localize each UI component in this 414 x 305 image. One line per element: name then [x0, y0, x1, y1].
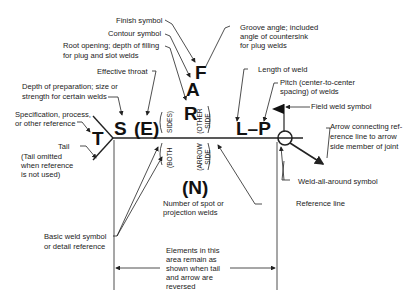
both-sides-top: SIDES)	[166, 111, 174, 133]
label-effective-throat: Effective throat	[97, 67, 148, 76]
label-depth-prep-1: Depth of preparation; size or	[22, 82, 118, 91]
label-root-opening-1: Root opening; depth of filling	[63, 41, 159, 50]
label-specification-1: Specification, process,	[15, 110, 91, 119]
label-pitch-1: Pitch (center-to-center	[280, 78, 355, 87]
label-field-weld: Field weld symbol	[311, 102, 371, 111]
label-tail-note-1: (Tail omitted	[21, 152, 62, 161]
label-arrow-connecting-3: side member of joint	[330, 142, 398, 151]
label-elements-5: reversed	[166, 282, 196, 291]
depth-S: S	[114, 119, 127, 138]
specification-T: T	[92, 129, 104, 148]
label-elements-3: shown when tail	[166, 264, 220, 273]
label-elements-4: and arrow are	[166, 273, 213, 282]
label-groove-angle-3: for plug welds	[240, 41, 287, 50]
label-finish-symbol: Finish symbol	[116, 16, 162, 25]
contour-symbol-A: A	[186, 80, 200, 99]
weld-symbol-diagram: F A R S (E) T L–P (N) SIDES) (BOTH (OTHE…	[0, 0, 414, 305]
label-weld-all-around: Weld-all-around symbol	[298, 177, 378, 186]
both-sides-bottom: (BOTH	[166, 147, 174, 168]
label-arrow-connecting-1: Arrow connecting ref-	[330, 122, 402, 131]
effective-throat-E: (E)	[134, 119, 159, 138]
label-tail-note-3: is not used)	[21, 170, 60, 179]
label-groove-angle-2: angle of countersink	[240, 32, 308, 41]
label-reference-line: Reference line	[296, 199, 345, 208]
arrow-side-label: (ARROW SIDE	[196, 142, 211, 172]
label-length-of-weld: Length of weld	[258, 65, 307, 74]
number-of-welds-N: (N)	[182, 178, 208, 197]
label-pitch-2: spacing) of welds	[280, 87, 339, 96]
label-number-spot-1: Number of spot or	[163, 199, 224, 208]
length-pitch-LP: L–P	[236, 119, 271, 138]
label-root-opening-2: for plug and slot welds	[63, 51, 139, 60]
label-basic-weld-2: or detail reference	[44, 242, 105, 251]
label-basic-weld-1: Basic weld symbol	[44, 232, 106, 241]
label-contour-symbol: Contour symbol	[108, 29, 161, 38]
label-specification-2: or other reference	[15, 119, 75, 128]
other-side-label: (OTHER SIDE	[196, 106, 211, 136]
label-depth-prep-2: strength for certain welds	[22, 92, 107, 101]
label-elements-1: Elements in this	[166, 246, 220, 255]
label-tail-note-2: when reference	[21, 161, 73, 170]
label-tail: Tail	[58, 142, 69, 151]
label-arrow-connecting-2: erence line to arrow	[330, 132, 397, 141]
label-number-spot-2: projection welds	[163, 208, 217, 217]
label-groove-angle-1: Groove angle; included	[240, 23, 318, 32]
label-elements-2: area remain as	[166, 255, 217, 264]
